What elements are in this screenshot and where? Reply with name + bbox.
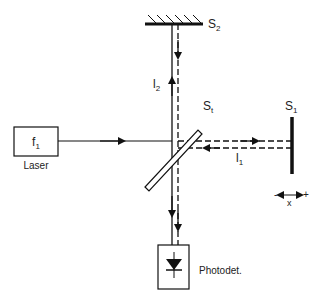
svg-text:+: +: [303, 189, 309, 200]
beam-2-label: l2: [153, 77, 161, 93]
mirror-s2-label: S2: [208, 17, 221, 33]
mirror-s2: [145, 15, 203, 24]
beam-arm-2: [172, 24, 178, 270]
beam-splitter: [145, 130, 202, 191]
beam-splitter-label: St: [203, 99, 214, 115]
laser-label: Laser: [23, 160, 49, 171]
svg-text:-: -: [274, 189, 277, 200]
interferometer-diagram: S2 l2 f1 Laser l1 St S1 - + x: [0, 0, 323, 300]
beam-1-label: l1: [236, 151, 244, 167]
mirror-s1-label: S1: [285, 99, 298, 115]
svg-text:x: x: [287, 198, 292, 208]
displacement-indicator: - + x: [274, 189, 309, 208]
photodetector-label: Photodet.: [199, 265, 242, 276]
